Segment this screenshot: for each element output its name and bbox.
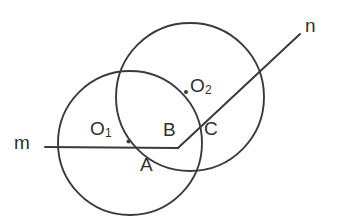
center-dot-o2 xyxy=(184,90,188,94)
circle-o2 xyxy=(116,23,264,171)
center-label-o2-letter: O xyxy=(190,75,205,96)
line-label-n: n xyxy=(305,16,316,35)
center-dot-o1 xyxy=(127,140,131,144)
point-label-b: B xyxy=(163,120,176,139)
center-label-o1-letter: O xyxy=(90,118,105,139)
center-label-o2-subscript: 2 xyxy=(205,83,212,97)
center-label-o1: O1 xyxy=(90,119,112,139)
geometry-diagram: m n O1 O2 A B C xyxy=(0,0,338,220)
line-m-segment xyxy=(45,147,178,148)
center-label-o2: O2 xyxy=(190,76,212,96)
center-label-o1-subscript: 1 xyxy=(105,126,112,140)
geometry-canvas xyxy=(0,0,338,220)
point-label-c: C xyxy=(204,119,218,138)
circle-o1 xyxy=(58,71,202,215)
line-label-m: m xyxy=(14,133,30,152)
point-label-a: A xyxy=(140,155,153,174)
